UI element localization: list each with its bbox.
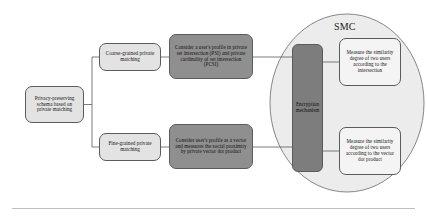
smc-group-label: SMC <box>334 21 356 32</box>
node-privacy-preserving-schema[interactable]: Privacy-preserving schema based on priva… <box>25 86 84 123</box>
smc-group-label-text: SMC <box>334 21 356 32</box>
node-private-set-intersection-label: Consider a user's profile in private set… <box>173 45 249 68</box>
node-measure-similarity-intersection-label: Measure the similarity degree of two use… <box>343 50 397 73</box>
node-fine-grained-private-matching-label: Fine-grained private matching <box>103 141 157 153</box>
node-private-set-intersection[interactable]: Consider a user's profile in private set… <box>169 34 253 79</box>
node-coarse-grained-private-matching-label: Coarse-grained private matching <box>103 51 157 63</box>
diagram-canvas: Privacy-preserving schema based on priva… <box>0 0 427 221</box>
node-coarse-grained-private-matching[interactable]: Coarse-grained private matching <box>99 43 161 71</box>
node-measure-similarity-dot-product[interactable]: Measure the similarity degree of two use… <box>339 127 401 175</box>
node-private-vector-dot-product-label: Consider user's profile as a vector and … <box>173 138 249 155</box>
node-encryption-mechanism-label: Encryption mechanism <box>296 102 320 114</box>
node-private-vector-dot-product[interactable]: Consider user's profile as a vector and … <box>169 124 253 169</box>
node-encryption-mechanism[interactable]: Encryption mechanism <box>292 44 323 172</box>
node-measure-similarity-dot-product-label: Measure the similarity degree of two use… <box>343 139 397 162</box>
connector-root-branch <box>84 57 99 147</box>
node-privacy-preserving-schema-label: Privacy-preserving schema based on priva… <box>29 96 80 113</box>
node-measure-similarity-intersection[interactable]: Measure the similarity degree of two use… <box>339 38 401 86</box>
node-fine-grained-private-matching[interactable]: Fine-grained private matching <box>99 133 161 161</box>
